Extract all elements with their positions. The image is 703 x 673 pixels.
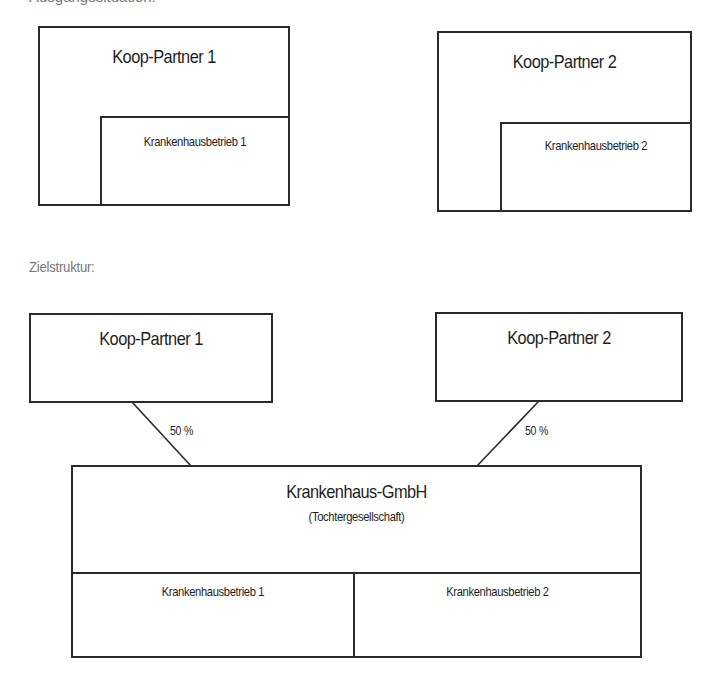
subsidiary-unit-2: Krankenhausbetrieb 2 bbox=[355, 572, 640, 656]
target-partner2-share: 50 % bbox=[525, 424, 548, 438]
target-partner2-title: Koop-Partner 2 bbox=[454, 327, 664, 349]
target-partner2-box: Koop-Partner 2 bbox=[435, 312, 683, 402]
target-partner1-title: Koop-Partner 1 bbox=[48, 328, 254, 350]
target-partner1-box: Koop-Partner 1 bbox=[29, 313, 273, 403]
subsidiary-unit-2-label: Krankenhausbetrieb 2 bbox=[375, 584, 620, 599]
subsidiary-title: Krankenhaus-GmbH bbox=[113, 481, 601, 503]
subsidiary-box: Krankenhaus-GmbH (Tochtergesellschaft) K… bbox=[71, 465, 642, 658]
subsidiary-unit-1-label: Krankenhausbetrieb 1 bbox=[93, 584, 334, 599]
target-partner1-share: 50 % bbox=[170, 424, 193, 438]
subsidiary-subtitle: (Tochtergesellschaft) bbox=[113, 509, 601, 524]
subsidiary-unit-1: Krankenhausbetrieb 1 bbox=[73, 572, 355, 656]
